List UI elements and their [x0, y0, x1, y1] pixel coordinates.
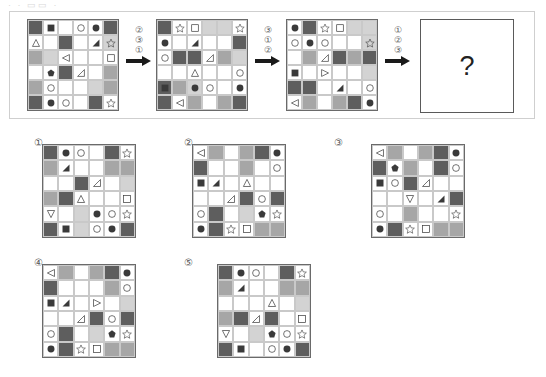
cell-r6-c3 — [403, 222, 418, 237]
cell-r5-c3 — [58, 80, 73, 95]
cell-r5-c5 — [433, 206, 448, 221]
filled-circle-icon — [373, 223, 386, 236]
cell-r6-c2 — [58, 222, 73, 237]
cell-r3-c5 — [104, 176, 119, 191]
cell-r4-c3 — [74, 191, 89, 206]
cell-r4-c4 — [89, 311, 104, 326]
open-circle-icon — [44, 327, 57, 340]
cell-r6-c1 — [157, 95, 172, 110]
answer-placeholder-box: ? — [420, 19, 514, 113]
option-1[interactable] — [42, 144, 136, 238]
cell-r2-c2 — [302, 35, 317, 50]
cell-r4-c3 — [224, 191, 239, 206]
cell-r6-c2 — [233, 342, 248, 357]
filled-square-icon — [373, 177, 386, 190]
cell-r1-c6 — [120, 145, 135, 160]
cell-r1-c2 — [208, 145, 223, 160]
cell-r5-c2 — [302, 80, 317, 95]
filled-pentagon-icon — [388, 161, 401, 174]
cell-r3-c1 — [287, 50, 302, 65]
option-3-label[interactable]: ③ — [331, 136, 345, 150]
cell-r4-c5 — [254, 191, 269, 206]
question-mark: ? — [459, 51, 474, 82]
open-star-icon — [233, 21, 246, 34]
cell-r5-c1 — [372, 206, 387, 221]
open-circle-icon — [280, 327, 293, 340]
cell-r3-c5 — [104, 296, 119, 311]
open-right-triangle-icon — [250, 312, 263, 325]
cell-r4-c5 — [433, 191, 448, 206]
open-star-icon — [296, 266, 309, 279]
filled-circle-icon — [59, 146, 72, 159]
stem-grid-1 — [27, 19, 119, 111]
cell-r6-c3 — [74, 222, 89, 237]
filled-right-triangle-icon — [59, 297, 72, 310]
cell-r4-c1 — [218, 311, 233, 326]
open-right-triangle-icon — [318, 51, 331, 64]
filled-circle-icon — [121, 266, 134, 279]
cell-r4-c4 — [202, 65, 217, 80]
open-circle-icon — [450, 161, 463, 174]
open-down-triangle-icon — [404, 192, 417, 205]
cell-r6-c3 — [58, 95, 73, 110]
cell-r6-c6 — [449, 222, 464, 237]
cell-r6-c4 — [73, 95, 88, 110]
cell-r2-c3 — [58, 35, 73, 50]
cell-r5-c5 — [88, 80, 103, 95]
cell-r2-c3 — [74, 160, 89, 175]
cell-r1-c1 — [28, 20, 43, 35]
cell-r6-c4 — [332, 95, 347, 110]
cell-r3-c2 — [58, 296, 73, 311]
cell-r1-c1 — [43, 265, 58, 280]
cell-r3-c3 — [317, 50, 332, 65]
filled-square-icon — [194, 177, 207, 190]
option-2-grid — [192, 144, 286, 238]
open-right-pointer-triangle-icon — [318, 66, 331, 79]
filled-right-triangle-icon — [333, 81, 346, 94]
cell-r2-c1 — [43, 160, 58, 175]
open-right-triangle-icon — [90, 177, 103, 190]
cell-r6-c6 — [270, 222, 285, 237]
cell-r4-c3 — [74, 311, 89, 326]
option-1-grid — [42, 144, 136, 238]
cell-r1-c5 — [279, 265, 294, 280]
cell-r6-c6 — [295, 342, 310, 357]
cell-r6-c1 — [28, 95, 43, 110]
cell-r1-c3 — [74, 145, 89, 160]
cell-r4-c4 — [332, 65, 347, 80]
cell-r4-c5 — [217, 65, 232, 80]
option-5-label[interactable]: ⑤ — [181, 256, 195, 270]
cell-r1-c4 — [89, 265, 104, 280]
cell-r3-c5 — [254, 176, 269, 191]
option-2[interactable] — [192, 144, 286, 238]
cell-r6-c3 — [317, 95, 332, 110]
option-5[interactable] — [217, 264, 311, 358]
cell-r3-c4 — [202, 50, 217, 65]
option-3[interactable] — [371, 144, 465, 238]
cell-r5-c1 — [287, 80, 302, 95]
cell-r6-c2 — [208, 222, 223, 237]
open-star-icon — [173, 21, 186, 34]
cell-r3-c6 — [120, 296, 135, 311]
cell-r6-c4 — [418, 222, 433, 237]
cell-r2-c1 — [218, 280, 233, 295]
cell-r3-c6 — [362, 50, 377, 65]
cell-r3-c2 — [43, 50, 58, 65]
cell-r5-c3 — [74, 326, 89, 341]
filled-circle-icon — [271, 146, 284, 159]
cell-r4-c3 — [403, 191, 418, 206]
cell-r5-c6 — [295, 326, 310, 341]
cell-r4-c1 — [157, 65, 172, 80]
arrow-2: ③①② — [251, 25, 285, 65]
cell-r2-c4 — [202, 35, 217, 50]
cell-r3-c1 — [43, 176, 58, 191]
cell-r1-c5 — [347, 20, 362, 35]
open-circle-icon — [105, 312, 118, 325]
open-triangle-up-icon — [75, 192, 88, 205]
cell-r3-c4 — [264, 296, 279, 311]
open-down-triangle-icon — [219, 327, 232, 340]
open-circle-icon — [363, 81, 376, 94]
filled-circle-icon — [450, 146, 463, 159]
cell-r5-c2 — [58, 206, 73, 221]
option-4[interactable] — [42, 264, 136, 358]
